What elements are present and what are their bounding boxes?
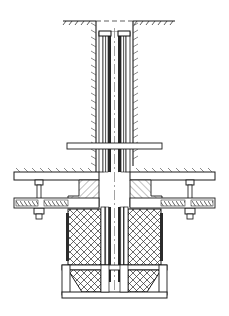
figure-canvas xyxy=(0,0,229,316)
cross-tie-bar xyxy=(67,143,162,149)
cross-section-drawing xyxy=(0,0,229,316)
